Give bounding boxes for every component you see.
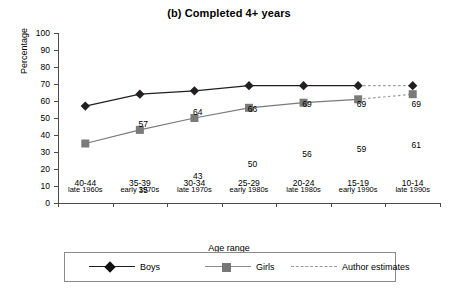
y-axis-tick-label: 70 [24,80,50,89]
y-axis-tick-label: 90 [24,46,50,55]
legend-label: Girls [256,262,275,272]
legend-entry-boys[interactable]: Boys [89,253,160,281]
data-point-marker [135,90,144,99]
legend-diamond-icon [104,261,115,272]
data-point-label: 64 [187,108,209,117]
x-axis-category-label: 40-44 [58,178,113,188]
series-estimate-line-girls [358,94,413,99]
series-paths [85,86,412,144]
data-point-label: 69 [351,100,373,109]
data-point-marker [409,90,417,98]
x-axis-tick [276,203,277,207]
y-axis-tick-label: 50 [24,114,50,123]
legend-swatch [291,261,337,273]
legend-label: Author estimates [342,262,410,272]
data-point-label: 50 [241,160,263,169]
x-axis-category-label: 20-24 [276,178,331,188]
x-axis-category-label: 10-14 [385,178,440,188]
data-point-label: 59 [351,145,373,154]
data-point-marker [408,81,417,90]
chart-legend: BoysGirlsAuthor estimates [64,252,396,282]
x-axis-tick [113,203,114,207]
y-axis-tick-label: 30 [24,148,50,157]
data-point-marker [244,81,253,90]
x-axis-tick [58,203,59,207]
x-axis-tick [385,203,386,207]
y-axis-tick-label: 0 [24,199,50,208]
series-markers [81,81,418,147]
y-axis-tick-label: 20 [24,165,50,174]
chart-title: (b) Completed 4+ years [0,7,458,19]
y-axis-tick-label: 100 [24,29,50,38]
data-point-marker [81,140,89,148]
data-point-marker [353,81,362,90]
y-axis-tick-label: 60 [24,97,50,106]
y-axis-tick-label: 80 [24,63,50,72]
x-axis-category-label: 30-34 [167,178,222,188]
data-point-label: 57 [132,120,154,129]
legend-line [291,266,337,267]
legend-square-icon [222,263,231,272]
data-point-marker [190,86,199,95]
x-axis-tick [222,203,223,207]
x-axis-tick [167,203,168,207]
x-axis-category-label: 35-39 [113,178,168,188]
legend-entry-girls[interactable]: Girls [205,253,275,281]
x-axis-tick [331,203,332,207]
y-axis-tick-label: 10 [24,182,50,191]
legend-entry-author-estimates[interactable]: Author estimates [291,253,410,281]
x-axis-line [58,203,440,204]
data-point-label: 56 [296,150,318,159]
legend-swatch [89,261,135,273]
data-point-label: 61 [405,141,427,150]
legend-items: BoysGirlsAuthor estimates [65,253,395,281]
x-axis-tick [440,203,441,207]
legend-label: Boys [140,262,160,272]
y-axis-tick-label: 40 [24,131,50,140]
data-point-label: 66 [241,105,263,114]
data-point-label: 69 [405,100,427,109]
legend-swatch [205,261,251,273]
data-point-marker [299,81,308,90]
x-axis-category-label: 25-29 [222,178,277,188]
chart-figure: (b) Completed 4+ years Percentage 010203… [0,0,458,291]
data-point-marker [81,101,90,110]
data-point-label: 69 [296,100,318,109]
x-axis-category-label: 15-19 [331,178,386,188]
